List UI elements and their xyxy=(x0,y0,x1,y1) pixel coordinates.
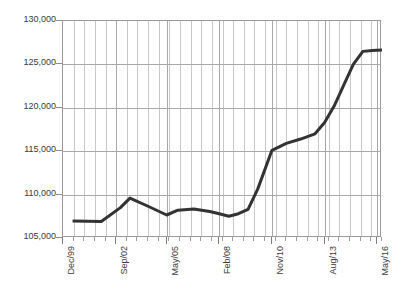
x-axis-tick-label: Dec/99 xyxy=(66,246,76,275)
x-axis-tick-mark xyxy=(158,237,159,241)
x-axis-tick-mark xyxy=(232,237,233,241)
x-axis-tick-mark-major xyxy=(62,237,63,244)
x-axis-tick-mark-major xyxy=(271,237,272,244)
line-chart: 130,000125,000120,000115,000110,000105,0… xyxy=(0,0,404,296)
x-axis-tick-mark-major xyxy=(324,237,325,244)
x-axis-tick-mark xyxy=(105,237,106,241)
y-axis-tick-label: 115,000 xyxy=(0,145,56,154)
x-axis-tick-mark xyxy=(222,237,223,241)
x-axis-tick-mark xyxy=(211,237,212,241)
y-axis-tick-label: 110,000 xyxy=(0,189,56,198)
x-axis-tick-mark xyxy=(285,237,286,241)
x-axis-tick-mark xyxy=(168,237,169,241)
x-axis-tick-mark xyxy=(200,237,201,241)
x-axis-tick-mark xyxy=(338,237,339,241)
x-axis-tick-mark xyxy=(275,237,276,241)
y-axis-tick-label: 125,000 xyxy=(0,58,56,67)
x-axis-tick-mark xyxy=(243,237,244,241)
x-axis-tick-mark-major xyxy=(166,237,167,244)
x-axis-tick-mark xyxy=(136,237,137,241)
y-axis-tick-label: 105,000 xyxy=(0,232,56,241)
x-axis-tick-mark xyxy=(126,237,127,241)
y-axis-tick-label: 130,000 xyxy=(0,15,56,24)
x-axis-tick-mark-major xyxy=(115,237,116,244)
x-axis-tick-mark-major xyxy=(376,237,377,244)
x-axis-tick-mark xyxy=(264,237,265,241)
x-axis-tick-mark xyxy=(381,237,382,241)
x-axis-tick-label: May/16 xyxy=(380,246,390,276)
x-axis-tick-label: Sep/02 xyxy=(119,246,129,275)
x-axis-tick-mark xyxy=(190,237,191,241)
x-axis-tick-mark xyxy=(147,237,148,241)
x-axis-tick-mark xyxy=(296,237,297,241)
x-axis-tick-label: Feb/08 xyxy=(222,246,232,274)
x-axis-tick-mark xyxy=(317,237,318,241)
plot-area xyxy=(62,20,381,237)
x-axis-tick-mark xyxy=(94,237,95,241)
x-axis-tick-mark xyxy=(370,237,371,241)
x-axis-tick-mark xyxy=(73,237,74,241)
x-axis-tick-mark xyxy=(328,237,329,241)
x-axis-tick-label: Aug/13 xyxy=(328,246,338,275)
data-series-line xyxy=(63,21,382,238)
y-axis-tick-label: 120,000 xyxy=(0,102,56,111)
x-axis-tick-mark-major xyxy=(218,237,219,244)
x-axis-tick-mark xyxy=(179,237,180,241)
x-axis-tick-mark xyxy=(349,237,350,241)
x-axis-tick-mark xyxy=(307,237,308,241)
x-axis-tick-label: May/05 xyxy=(170,246,180,276)
x-axis-tick-label: Nov/10 xyxy=(275,246,285,275)
x-axis-tick-mark xyxy=(360,237,361,241)
x-axis-tick-mark xyxy=(83,237,84,241)
x-axis-tick-mark xyxy=(253,237,254,241)
